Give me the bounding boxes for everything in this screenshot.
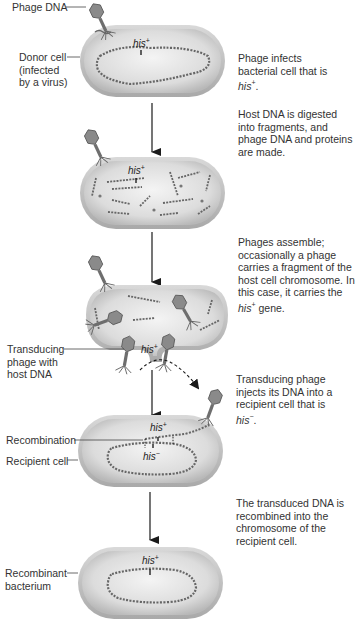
gene-label-digested: his+ bbox=[128, 164, 145, 176]
gene-label-recipient-donor: his+ bbox=[150, 421, 167, 433]
gene-label-transducing: his+ bbox=[141, 343, 158, 355]
label-donor-cell: Donor cell (infected by a virus) bbox=[19, 51, 67, 89]
step-4-description: Transducing phage injects its DNA into a… bbox=[236, 373, 348, 426]
gene-label-recipient: his− bbox=[143, 450, 160, 462]
label-recombinant-bacterium: Recombinant bacterium bbox=[5, 567, 67, 592]
step-2-description: Host DNA is digested into fragments, and… bbox=[238, 108, 356, 158]
label-transducing-phage: Transducing phage with host DNA bbox=[7, 343, 64, 381]
step-3-description: Phages assemble; occasionally a phage ca… bbox=[238, 236, 358, 314]
label-recombination: Recombination bbox=[6, 434, 76, 447]
phage-attached-2 bbox=[81, 126, 112, 167]
phage-attached-3 bbox=[85, 252, 116, 293]
donor-cell bbox=[80, 25, 225, 97]
arrow-transducing-phage bbox=[140, 360, 198, 388]
gene-label-recombinant: his+ bbox=[142, 554, 159, 566]
step-5-description: The transduced DNA is recombined into th… bbox=[236, 497, 344, 547]
gene-label-donor: his+ bbox=[133, 37, 150, 49]
step-1-description: Phage infects bacterial cell that is his… bbox=[238, 52, 343, 92]
label-recipient-cell: Recipient cell bbox=[6, 455, 68, 468]
label-phage-dna: Phage DNA bbox=[12, 1, 67, 14]
digested-cell bbox=[80, 157, 225, 229]
